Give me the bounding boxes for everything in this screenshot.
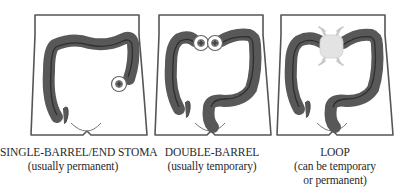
caption-double-barrel: DOUBLE-BARREL (usually temporary) xyxy=(150,145,274,173)
caption-title: LOOP xyxy=(276,145,394,159)
panel-single-barrel xyxy=(31,15,147,135)
caption-loop: LOOP (can be temporary or permanent) xyxy=(276,145,394,187)
stoma-icon xyxy=(112,77,127,92)
caption-subtitle: (usually permanent) xyxy=(0,159,146,173)
caption-title: DOUBLE-BARREL xyxy=(150,145,274,159)
caption-subtitle-line-1: (can be temporary xyxy=(276,159,394,173)
panel-double-barrel xyxy=(155,15,271,135)
caption-title: SINGLE-BARREL/END STOMA xyxy=(0,145,146,159)
stoma-icon-distal xyxy=(208,36,223,51)
caption-subtitle-line-2: or permanent) xyxy=(276,173,394,187)
loop-stoma-icon xyxy=(320,35,343,58)
caption-subtitle: (usually temporary) xyxy=(150,159,274,173)
caption-single-barrel: SINGLE-BARREL/END STOMA (usually permane… xyxy=(0,145,146,173)
panel-loop xyxy=(277,15,393,135)
stoma-icon-proximal xyxy=(194,36,209,51)
